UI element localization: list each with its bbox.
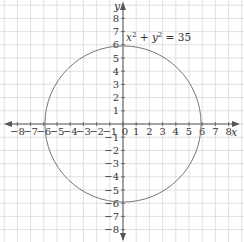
x-tick-label: 3 [159, 126, 165, 137]
equation-label: x2 + y2 = 35 [126, 31, 191, 43]
y-axis-label: y [113, 0, 121, 13]
y-tick-label: −7 [104, 211, 119, 222]
x-tick-label: 5 [186, 126, 192, 137]
coordinate-plane: −8−7−6−5−4−3−2−1012345678−8−7−6−5−4−3−2−… [0, 0, 244, 242]
y-tick-label: 5 [113, 53, 119, 64]
y-tick-label: −2 [104, 145, 119, 156]
y-tick-label: 2 [113, 92, 119, 103]
x-tick-label: 0 [122, 126, 128, 137]
x-tick-label: 1 [133, 126, 139, 137]
y-tick-label: −5 [104, 185, 119, 196]
y-tick-label: −1 [104, 132, 119, 143]
y-axis-up-arrow-icon [120, 2, 126, 10]
axes [4, 2, 240, 241]
y-tick-label: −8 [104, 224, 119, 235]
x-tick-label: 7 [212, 126, 218, 137]
y-tick-label: 4 [113, 66, 119, 77]
y-tick-label: −3 [104, 158, 119, 169]
grid-lines [0, 0, 244, 242]
y-tick-label: −6 [104, 198, 119, 209]
y-tick-label: 7 [113, 26, 119, 37]
x-axis-label: x [231, 126, 238, 139]
y-tick-label: 3 [113, 79, 119, 90]
y-axis-down-arrow-icon [120, 233, 126, 241]
y-tick-label: −4 [104, 171, 119, 182]
y-tick-label: 8 [113, 13, 119, 24]
x-tick-label: 4 [173, 126, 179, 137]
x-tick-label: 2 [146, 126, 152, 137]
y-tick-label: 1 [113, 105, 119, 116]
y-tick-label: 6 [113, 39, 119, 50]
